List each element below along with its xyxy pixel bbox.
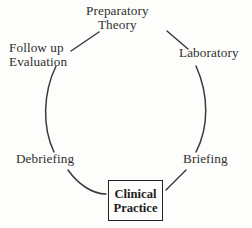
node-clinical-practice-line-1: Clinical [115,187,157,201]
connector-debriefing-to-follow-up [46,66,56,152]
node-laboratory: Laboratory [179,46,239,60]
node-debriefing-line-1: Debriefing [16,152,74,166]
connector-laboratory-to-briefing [196,66,206,152]
connector-clinical-practice-to-debriefing [68,170,106,194]
node-clinical-practice: Clinical Practice [108,180,163,221]
node-clinical-practice-line-2: Practice [113,201,157,215]
node-laboratory-line-1: Laboratory [179,46,239,60]
node-briefing: Briefing [183,152,228,166]
cycle-diagram: Preparatory Theory Laboratory Briefing C… [0,0,252,228]
connector-follow-up-to-preparatory [71,32,99,51]
node-follow-up-evaluation: Follow up Evaluation [9,41,67,69]
node-briefing-line-1: Briefing [183,152,228,166]
node-follow-up-evaluation-line-2: Evaluation [9,55,67,69]
node-follow-up-evaluation-line-1: Follow up [9,41,67,55]
node-preparatory-theory-line-1: Preparatory [86,4,149,18]
node-preparatory-theory-line-2: Theory [86,18,149,32]
connector-briefing-to-clinical-practice [166,170,186,190]
node-debriefing: Debriefing [16,152,74,166]
node-preparatory-theory: Preparatory Theory [86,4,149,32]
